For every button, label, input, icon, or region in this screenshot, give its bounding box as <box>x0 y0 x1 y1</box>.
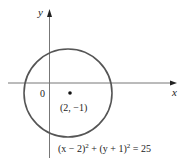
circle <box>24 49 112 137</box>
y-axis-label: y <box>37 6 43 18</box>
y-axis-arrow-icon <box>47 9 52 17</box>
circle-diagram: y x 0 (2, −1) (x − 2)2 + (y + 1)2 = 25 <box>0 0 185 162</box>
center-label: (2, −1) <box>60 102 87 114</box>
x-axis-arrow-icon <box>170 81 177 86</box>
equation-plus: + (y + 1) <box>89 143 127 155</box>
x-axis-label: x <box>171 86 177 98</box>
circle-equation: (x − 2)2 + (y + 1)2 = 25 <box>58 142 151 155</box>
center-point <box>68 91 72 95</box>
equation-left: (x − 2) <box>58 143 85 155</box>
equation-equals: = 25 <box>130 143 151 154</box>
origin-label: 0 <box>40 88 45 99</box>
